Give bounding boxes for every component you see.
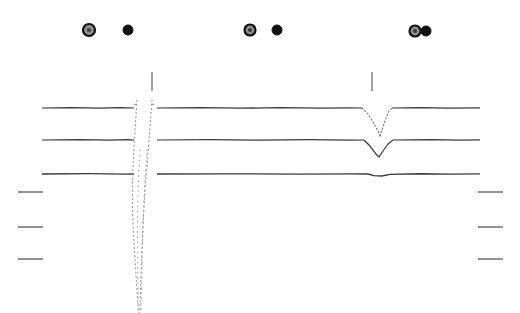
signal-plot-canvas <box>0 0 520 313</box>
marker-solid-3[interactable] <box>421 26 431 36</box>
marker-ring-3[interactable] <box>410 26 421 37</box>
trace-1-right-segment <box>157 108 362 109</box>
figure-root: line event markers vertical event tick m… <box>0 0 520 313</box>
marker-ring-1[interactable] <box>83 24 95 36</box>
trace-2-left-segment <box>42 140 134 141</box>
trace-2-tail-segment <box>393 140 480 141</box>
trace-1-tail-segment <box>392 108 480 109</box>
marker-solid-2[interactable] <box>272 25 282 35</box>
trace-2-right-segment <box>157 140 364 141</box>
trace-1-left-segment <box>42 108 134 109</box>
marker-ring-2[interactable] <box>245 25 256 36</box>
marker-solid-1[interactable] <box>123 25 133 35</box>
plot-background <box>0 0 520 313</box>
